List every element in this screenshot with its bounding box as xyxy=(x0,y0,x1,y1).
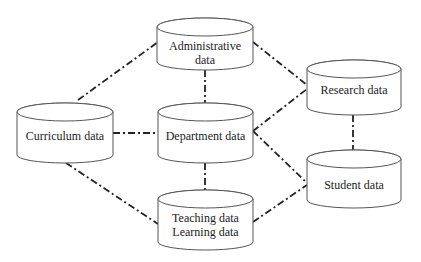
node-label: Research data xyxy=(321,83,389,97)
node-administrative: Administrative data xyxy=(157,18,253,70)
node-department: Department data xyxy=(158,103,253,163)
node-curriculum: Curriculum data xyxy=(17,103,113,163)
edge-administrative-research xyxy=(253,42,307,85)
node-research: Research data xyxy=(307,60,401,115)
edge-department-research xyxy=(253,89,307,131)
node-label: data xyxy=(195,53,216,67)
edge-department-student xyxy=(253,131,307,183)
node-label: Administrative xyxy=(169,39,241,53)
edge-curriculum-teaching xyxy=(66,163,158,224)
node-label: Department data xyxy=(166,129,246,143)
node-label: Learning data xyxy=(172,225,239,239)
edge-teaching-student xyxy=(253,185,307,222)
node-student: Student data xyxy=(307,150,401,208)
node-label: Curriculum data xyxy=(26,129,105,143)
node-label: Teaching data xyxy=(172,211,239,225)
edge-curriculum-administrative xyxy=(78,42,158,100)
diagram-canvas: Administrative data Curriculum data Depa… xyxy=(0,0,421,262)
node-label: Student data xyxy=(324,178,384,192)
node-teaching-learning: Teaching data Learning data xyxy=(158,190,253,250)
